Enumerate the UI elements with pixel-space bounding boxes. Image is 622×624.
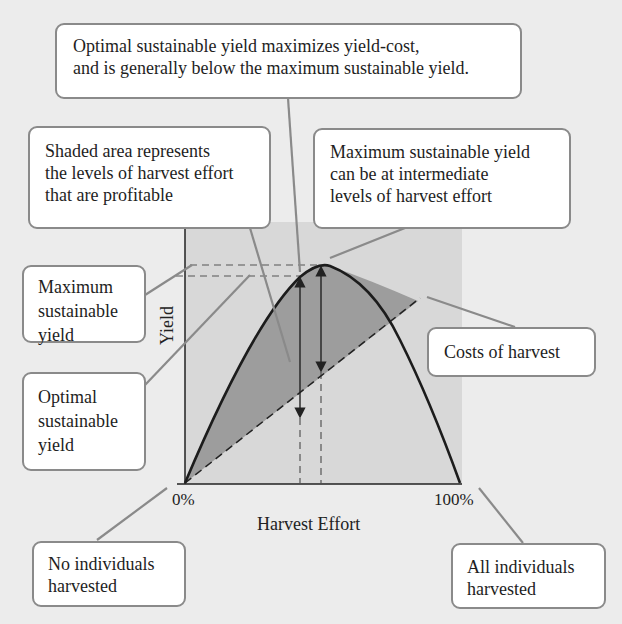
callout-optimal-sustainable-yield: Optimal sustainable yield xyxy=(22,372,146,471)
x-min-label: 0% xyxy=(172,490,195,510)
y-axis-label: Yield xyxy=(157,306,178,345)
callout-costs-of-harvest: Costs of harvest xyxy=(427,327,596,377)
x-axis-label: Harvest Effort xyxy=(257,514,360,535)
callout-all-individuals: All individuals harvested xyxy=(451,543,606,609)
callout-optimal-top: Optimal sustainable yield maximizes yiel… xyxy=(55,23,522,99)
x-max-label: 100% xyxy=(434,490,474,510)
callout-no-individuals: No individuals harvested xyxy=(32,541,186,607)
callout-max-sustainable-yield: Maximum sustainable yield xyxy=(22,265,146,343)
callout-shaded-area: Shaded area represents the levels of har… xyxy=(28,126,271,229)
callout-msy-intermediate: Maximum sustainable yield can be at inte… xyxy=(313,128,571,229)
